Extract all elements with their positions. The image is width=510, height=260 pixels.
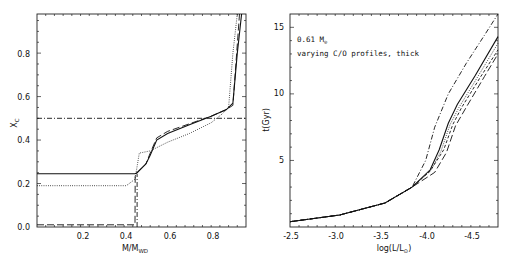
right-y-tick-labels: 5 10 15 — [274, 23, 284, 165]
left-ytick-0: 0.0 — [17, 223, 30, 232]
left-curves — [37, 14, 246, 227]
left-y-axis-title: XC — [10, 118, 20, 127]
left-xtick-3: 0.8 — [207, 232, 220, 241]
left-x-tick-labels: 0.2 0.4 0.6 0.8 — [77, 232, 220, 241]
annotation-description: varying C/O profiles, thick — [297, 49, 419, 58]
curve-solid — [290, 37, 498, 222]
right-ytick-1: 10 — [274, 89, 284, 98]
left-xtick-2: 0.6 — [164, 232, 177, 241]
left-xtick-0: 0.2 — [77, 232, 90, 241]
left-ytick-3: 0.6 — [17, 93, 30, 102]
right-plot-frame — [290, 14, 498, 227]
left-x-axis-title: M/MWD — [122, 244, 148, 254]
left-ytick-4: 0.8 — [17, 50, 30, 59]
right-ytick-2: 15 — [274, 23, 284, 32]
right-x-axis-title: log(L/L⊙) — [377, 244, 412, 254]
curve-dotted — [37, 14, 237, 186]
right-ytick-0: 5 — [279, 156, 284, 165]
right-axis-ticks — [290, 14, 498, 227]
figure: 0.0 0.2 0.4 0.6 0.8 0.2 0.4 0.6 0.8 M/MW… — [0, 0, 510, 260]
left-ytick-2: 0.4 — [17, 136, 30, 145]
curve-dash-dot — [290, 14, 498, 222]
curve-long-dash — [290, 54, 498, 222]
left-y-tick-labels: 0.0 0.2 0.4 0.6 0.8 — [17, 50, 30, 232]
curve-solid — [37, 14, 242, 174]
curve-dotted — [290, 43, 498, 221]
right-x-tick-labels: -2.5 -3.0 -3.5 -4.0 -4.5 — [283, 232, 480, 241]
left-ytick-1: 0.2 — [17, 180, 30, 189]
curve-long-dash — [37, 14, 240, 225]
right-y-axis-title: t(Gyr) — [262, 108, 271, 132]
right-xtick-3: -4.0 — [419, 232, 435, 241]
right-plot-panel: 5 10 15 -2.5 -3.0 -3.5 -4.0 -4.5 log(L/L… — [262, 14, 498, 254]
left-plot-panel: 0.0 0.2 0.4 0.6 0.8 0.2 0.4 0.6 0.8 M/MW… — [10, 14, 246, 254]
curve-short-dash — [290, 50, 498, 222]
right-xtick-1: -3.0 — [328, 232, 344, 241]
right-curves — [290, 14, 498, 222]
annotation-mass: 0.61 M⊙ — [297, 35, 328, 45]
right-xtick-0: -2.5 — [283, 232, 299, 241]
left-xtick-1: 0.4 — [120, 232, 133, 241]
right-xtick-2: -3.5 — [373, 232, 389, 241]
right-xtick-4: -4.5 — [464, 232, 480, 241]
